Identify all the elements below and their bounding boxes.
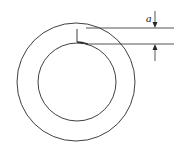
inner-circle <box>38 43 116 121</box>
dimension-arrow-bottom-icon <box>153 44 158 61</box>
ring-crack-diagram: a <box>0 0 189 156</box>
dimension-label: a <box>146 12 152 24</box>
dimension-arrow-top-icon <box>153 11 158 28</box>
outer-circle <box>17 23 135 141</box>
